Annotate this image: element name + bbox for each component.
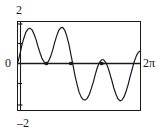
axis-touch-point-1 xyxy=(45,62,48,65)
plot-figure: 2 0 –2 2π xyxy=(0,0,166,133)
y-min-label: –2 xyxy=(17,117,29,129)
y-zero-label: 0 xyxy=(5,57,11,69)
axis-crossing-point-3 xyxy=(100,62,103,65)
x-max-label: 2π xyxy=(143,57,155,69)
plot-canvas xyxy=(0,0,166,133)
y-max-label: 2 xyxy=(16,4,22,16)
axis-crossing-point-2 xyxy=(69,62,72,65)
